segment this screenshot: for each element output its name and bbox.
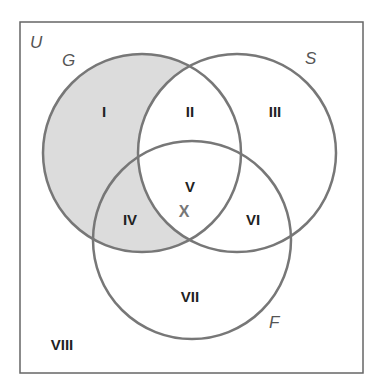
venn-diagram: U G S F I II III IV V VI VII VIII X — [0, 0, 383, 382]
set-g-label: G — [62, 51, 75, 70]
set-f-label: F — [269, 313, 281, 332]
region-vii-label: VII — [181, 288, 199, 305]
element-x-marker: X — [179, 203, 190, 220]
universe-label: U — [30, 33, 43, 52]
set-s-label: S — [305, 49, 317, 68]
region-viii-label: VIII — [51, 336, 74, 353]
region-i-label: I — [102, 103, 106, 120]
region-vi-label: VI — [246, 211, 260, 228]
region-iii-label: III — [269, 103, 282, 120]
region-v-label: V — [185, 178, 195, 195]
region-iv-label: IV — [123, 211, 137, 228]
region-ii-label: II — [186, 103, 194, 120]
